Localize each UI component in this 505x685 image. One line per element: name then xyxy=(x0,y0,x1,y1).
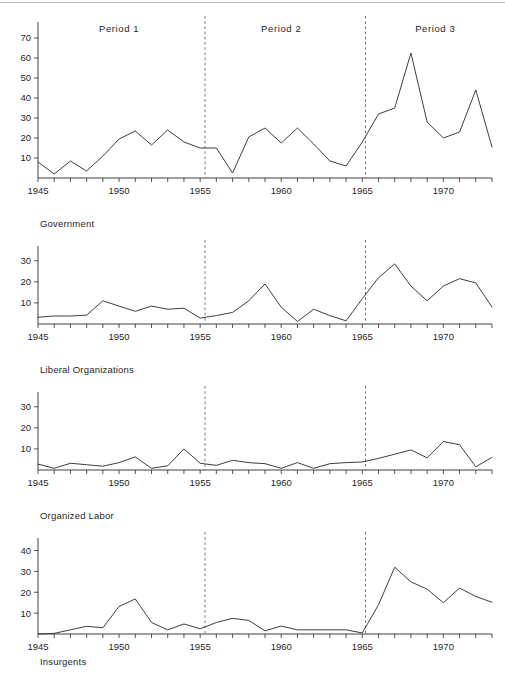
x-tick-label: 1945 xyxy=(27,331,48,342)
panel-1: 10203040506070194519501955196019651970Pe… xyxy=(0,8,505,208)
panel-3: 102030194519501955196019651970 xyxy=(0,378,505,500)
multi-panel-line-chart-figure: 10203040506070194519501955196019651970Pe… xyxy=(0,0,505,685)
y-tick-label: 60 xyxy=(20,52,31,63)
y-tick-label: 40 xyxy=(20,92,31,103)
panel-plot-4: 10203040194519501955196019651970 xyxy=(0,524,505,664)
series-line-1 xyxy=(38,53,492,174)
panel-caption-4: Insurgents xyxy=(40,656,86,667)
x-tick-label: 1955 xyxy=(190,331,211,342)
series-line-2 xyxy=(38,264,492,322)
y-tick-label: 10 xyxy=(20,152,31,163)
x-tick-label: 1950 xyxy=(109,641,130,652)
x-tick-label: 1965 xyxy=(352,641,373,652)
x-tick-label: 1950 xyxy=(109,185,130,196)
x-tick-label: 1945 xyxy=(27,641,48,652)
x-tick-label: 1970 xyxy=(433,185,454,196)
x-tick-label: 1960 xyxy=(271,185,292,196)
x-tick-label: 1955 xyxy=(190,477,211,488)
x-tick-label: 1965 xyxy=(352,185,373,196)
y-tick-label: 30 xyxy=(20,566,31,577)
period-label: Period 3 xyxy=(415,23,455,34)
y-tick-label: 30 xyxy=(20,401,31,412)
panel-plot-3: 102030194519501955196019651970 xyxy=(0,378,505,500)
y-tick-label: 20 xyxy=(20,132,31,143)
period-label: Period 1 xyxy=(99,23,139,34)
x-tick-label: 1950 xyxy=(109,331,130,342)
y-tick-label: 70 xyxy=(20,32,31,43)
axis-lines xyxy=(38,392,492,470)
y-tick-label: 20 xyxy=(20,422,31,433)
x-tick-label: 1945 xyxy=(27,185,48,196)
x-tick-label: 1960 xyxy=(271,331,292,342)
panel-caption-1: Government xyxy=(40,218,94,229)
x-tick-label: 1970 xyxy=(433,331,454,342)
y-tick-label: 20 xyxy=(20,276,31,287)
x-tick-label: 1965 xyxy=(352,331,373,342)
panel-caption-3: Organized Labor xyxy=(40,510,114,521)
panel-4: 10203040194519501955196019651970 xyxy=(0,524,505,664)
y-tick-label: 10 xyxy=(20,443,31,454)
x-tick-label: 1960 xyxy=(271,477,292,488)
x-tick-label: 1965 xyxy=(352,477,373,488)
series-line-3 xyxy=(38,442,492,469)
y-tick-label: 30 xyxy=(20,112,31,123)
x-tick-label: 1960 xyxy=(271,641,292,652)
period-label: Period 2 xyxy=(261,23,301,34)
panel-plot-1: 10203040506070194519501955196019651970Pe… xyxy=(0,8,505,208)
y-tick-label: 50 xyxy=(20,72,31,83)
series-line-4 xyxy=(38,567,492,634)
panel-2: 102030194519501955196019651970 xyxy=(0,232,505,354)
axis-lines xyxy=(38,538,492,634)
x-tick-label: 1970 xyxy=(433,477,454,488)
panel-caption-2: Liberal Organizations xyxy=(40,364,134,375)
y-tick-label: 10 xyxy=(20,297,31,308)
panel-plot-2: 102030194519501955196019651970 xyxy=(0,232,505,354)
y-tick-label: 40 xyxy=(20,545,31,556)
y-tick-label: 10 xyxy=(20,608,31,619)
x-tick-label: 1945 xyxy=(27,477,48,488)
x-tick-label: 1955 xyxy=(190,185,211,196)
x-tick-label: 1970 xyxy=(433,641,454,652)
x-tick-label: 1955 xyxy=(190,641,211,652)
axis-lines xyxy=(38,22,492,178)
y-tick-label: 30 xyxy=(20,255,31,266)
top-rule-divider xyxy=(0,2,505,3)
x-tick-label: 1950 xyxy=(109,477,130,488)
axis-lines xyxy=(38,246,492,324)
y-tick-label: 20 xyxy=(20,587,31,598)
